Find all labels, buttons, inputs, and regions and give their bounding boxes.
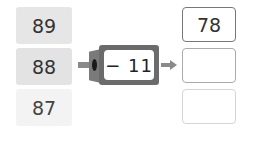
output-arrow-icon bbox=[161, 60, 177, 70]
input-cell-87: 87 bbox=[16, 89, 72, 126]
machine-input-slot-icon bbox=[92, 59, 97, 71]
output-box-3[interactable] bbox=[182, 89, 236, 124]
input-cell-89: 89 bbox=[16, 7, 72, 44]
input-cell-88: 88 bbox=[16, 48, 72, 85]
output-box-1[interactable]: 78 bbox=[182, 7, 236, 42]
output-box-2[interactable] bbox=[182, 48, 236, 83]
machine-operation: − 11 bbox=[104, 50, 154, 80]
function-machine: − 11 bbox=[89, 45, 161, 87]
